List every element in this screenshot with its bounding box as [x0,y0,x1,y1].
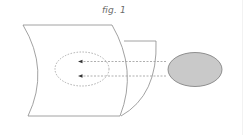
diagram [0,0,245,135]
source-ellipse [168,53,222,87]
page-edge [242,0,243,135]
front-panel [23,25,127,116]
